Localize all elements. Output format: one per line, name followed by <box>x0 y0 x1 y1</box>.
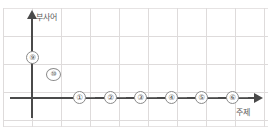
y-axis-line <box>31 18 33 118</box>
y-axis-label: 부사어 <box>36 11 57 22</box>
marker-5[interactable]: ⑤ <box>195 91 208 104</box>
marker-connector <box>117 97 126 98</box>
marker-2[interactable]: ② <box>104 91 117 104</box>
marker-connector <box>239 97 248 98</box>
gridline-vertical <box>148 8 149 127</box>
marker-1[interactable]: ① <box>73 91 86 104</box>
marker-connector <box>208 97 218 98</box>
marker-connector <box>147 97 157 98</box>
marker-connector <box>178 97 187 98</box>
gridline-vertical <box>206 8 207 127</box>
gridline-vertical <box>3 8 4 127</box>
coordinate-plane-figure: 부사어 주제 ① ② ③ ④ ⑤ ⑥ ⑨ ⑩ <box>0 0 271 131</box>
grid-bottom-edge <box>3 126 268 127</box>
marker-9[interactable]: ⑨ <box>26 51 39 64</box>
x-axis-label: 주제 <box>236 106 250 117</box>
marker-6[interactable]: ⑥ <box>226 91 239 104</box>
x-axis-arrowhead-icon <box>254 93 263 103</box>
gridline-vertical <box>264 8 265 127</box>
gridline-vertical <box>90 8 91 127</box>
marker-4[interactable]: ④ <box>165 91 178 104</box>
gridline-horizontal <box>3 120 268 121</box>
gridline-vertical <box>177 8 178 127</box>
grid-top-edge <box>3 8 268 9</box>
gridline-vertical <box>119 8 120 127</box>
marker-3[interactable]: ③ <box>134 91 147 104</box>
gridline-horizontal <box>3 36 268 37</box>
marker-connector <box>86 97 95 98</box>
gridline-horizontal <box>3 64 268 65</box>
marker-10[interactable]: ⑩ <box>46 68 61 81</box>
gridline-vertical <box>61 8 62 127</box>
